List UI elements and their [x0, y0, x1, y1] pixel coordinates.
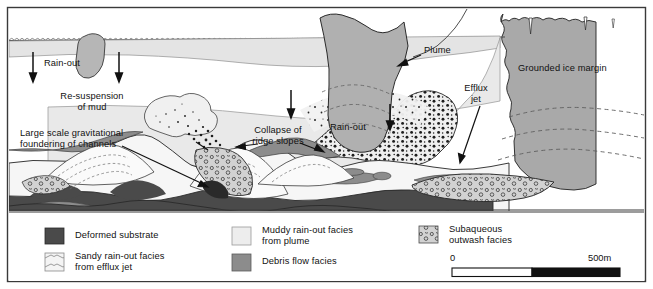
label-large-scale-foundering: Large scale gravitational foundering of …: [20, 128, 123, 149]
legend-label-sandy-rainout: Sandy rain-out facies from efflux jet: [75, 251, 164, 273]
label-collapse-of-ridge-slopes: Collapse of ridge slopes: [240, 125, 316, 146]
scale-bar: [452, 268, 620, 277]
label-rain-out-mid: Rain-out: [330, 122, 366, 133]
legend-swatch-deformed-substrate: [45, 228, 64, 244]
debris-clast-2: [373, 172, 391, 180]
legend-label-deformed-substrate: Deformed substrate: [75, 230, 158, 241]
label-rain-out-left: Rain-out: [44, 58, 80, 69]
scale-bar-segment-light: [452, 268, 532, 277]
legend-label-debris-flow: Debris flow facies: [262, 256, 337, 267]
re-suspension-mud-cloud: [144, 93, 217, 136]
legend-label-subaqueous-outwash: Subaqueous outwash facies: [449, 224, 512, 246]
legend-swatch-sandy-rainout: [45, 253, 64, 271]
scale-bar-max-label: 500m: [588, 253, 611, 263]
legend-swatch-muddy-rainout: [232, 227, 251, 245]
label-grounded-ice-margin: Grounded ice margin: [518, 63, 607, 74]
legend-swatch-debris-flow: [232, 254, 251, 271]
scale-bar-segment-dark: [532, 268, 620, 277]
label-re-suspension-of-mud: Re-suspension of mud: [42, 91, 142, 112]
label-plume: Plume: [424, 45, 451, 56]
label-efflux-jet: Efflux jet: [452, 83, 500, 104]
legend-label-muddy-rainout: Muddy rain-out facies from plume: [262, 225, 353, 247]
legend-swatch-subaqueous-outwash: [419, 226, 438, 243]
scale-bar-min-label: 0: [450, 253, 455, 263]
geological-cross-section-figure: Rain-out Re-suspension of mud Large scal…: [0, 0, 653, 289]
